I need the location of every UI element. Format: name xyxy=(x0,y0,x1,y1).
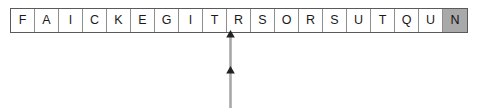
letter-cell[interactable]: R xyxy=(227,9,251,32)
letter-cell[interactable]: U xyxy=(347,9,371,32)
letter-cell[interactable]: K xyxy=(107,9,131,32)
arrow-head-lower xyxy=(226,66,235,74)
letter-cell[interactable]: O xyxy=(275,9,299,32)
letter-cell[interactable]: I xyxy=(179,9,203,32)
letter-cell[interactable]: N xyxy=(443,9,467,32)
letter-cell[interactable]: S xyxy=(323,9,347,32)
letter-cell[interactable]: I xyxy=(59,9,83,32)
letter-cell[interactable]: R xyxy=(299,9,323,32)
letter-sequence-figure: FAICKEGITRSORSUTQUN xyxy=(0,0,501,108)
letter-cell[interactable]: S xyxy=(251,9,275,32)
letter-cell[interactable]: A xyxy=(35,9,59,32)
letter-cell[interactable]: T xyxy=(371,9,395,32)
letter-cell[interactable]: G xyxy=(155,9,179,32)
letter-cell[interactable]: C xyxy=(83,9,107,32)
letter-strip: FAICKEGITRSORSUTQUN xyxy=(10,8,468,33)
letter-cell[interactable]: F xyxy=(11,9,35,32)
letter-cell[interactable]: Q xyxy=(395,9,419,32)
letter-cell[interactable]: T xyxy=(203,9,227,32)
letter-cell[interactable]: U xyxy=(419,9,443,32)
letter-cell[interactable]: E xyxy=(131,9,155,32)
